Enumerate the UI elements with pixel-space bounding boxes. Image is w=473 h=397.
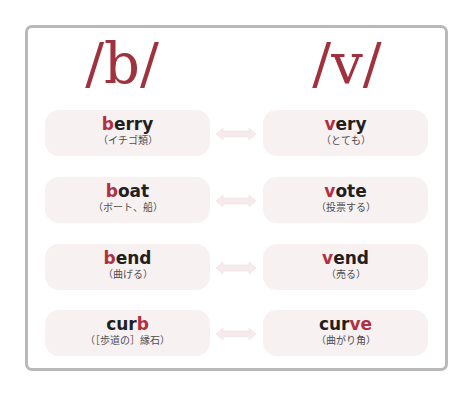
word-card-curb: curb （［歩道の］縁石） — [45, 310, 210, 356]
slash: / — [85, 31, 104, 96]
word-card-berry: berry （イチゴ類） — [45, 110, 210, 156]
gloss: （投票する） — [263, 201, 428, 215]
phoneme-symbol: b — [104, 31, 140, 96]
word: curb — [45, 310, 210, 334]
double-arrow-icon — [215, 194, 257, 208]
word: vote — [263, 177, 428, 201]
gloss: （とても） — [263, 134, 428, 148]
gloss: （売る） — [263, 268, 428, 282]
word: berry — [45, 110, 210, 134]
word-card-curve: curve （曲がり角） — [263, 310, 428, 356]
phoneme-symbol: v — [331, 31, 363, 96]
word-card-vend: vend （売る） — [263, 244, 428, 290]
word: boat — [45, 177, 210, 201]
word-card-boat: boat （ボート、船） — [45, 177, 210, 223]
slash: / — [363, 31, 382, 96]
word: very — [263, 110, 428, 134]
gloss: （ボート、船） — [45, 201, 210, 215]
gloss: （イチゴ類） — [45, 134, 210, 148]
double-arrow-icon — [215, 261, 257, 275]
word: curve — [263, 310, 428, 334]
heading-b: /b/ — [22, 32, 222, 96]
gloss: （曲げる） — [45, 268, 210, 282]
double-arrow-icon — [215, 127, 257, 141]
double-arrow-icon — [215, 327, 257, 341]
word-card-bend: bend （曲げる） — [45, 244, 210, 290]
heading-v: /v/ — [247, 32, 447, 96]
gloss: （［歩道の］縁石） — [45, 334, 210, 348]
gloss: （曲がり角） — [263, 334, 428, 348]
word: bend — [45, 244, 210, 268]
word-card-vote: vote （投票する） — [263, 177, 428, 223]
slash: / — [140, 31, 159, 96]
word: vend — [263, 244, 428, 268]
slash: / — [312, 31, 331, 96]
word-card-very: very （とても） — [263, 110, 428, 156]
